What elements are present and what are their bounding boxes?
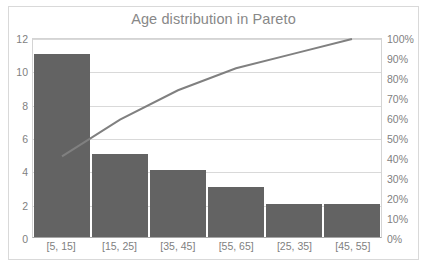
y-axis-right-tick-label: 60% xyxy=(387,113,408,125)
y-axis-right-tick-label: 10% xyxy=(387,213,408,225)
x-axis-tick-label: [15, 25] xyxy=(90,240,148,252)
y-axis-left-tick-label: 2 xyxy=(22,200,28,212)
y-axis-left-tick-label: 4 xyxy=(22,166,28,178)
y-axis-right-tick-label: 0% xyxy=(387,233,402,245)
bar xyxy=(92,154,148,237)
bar-cell xyxy=(323,39,381,237)
chart-title: Age distribution in Pareto xyxy=(9,11,418,27)
y-axis-right-tick-label: 90% xyxy=(387,53,408,65)
y-axis-left-tick-label: 0 xyxy=(22,233,28,245)
x-axis-tick-label: [35, 45] xyxy=(149,240,207,252)
y-axis-right-tick-label: 20% xyxy=(387,193,408,205)
x-axis-tick-label: [45, 55] xyxy=(324,240,382,252)
bar-cell xyxy=(207,39,265,237)
bar-series xyxy=(33,39,381,237)
bar xyxy=(266,204,322,237)
y-axis-left-tick-label: 10 xyxy=(16,66,28,78)
bar xyxy=(150,170,206,237)
x-axis-tick-label: [5, 15] xyxy=(32,240,90,252)
x-axis-tick-label: [25, 35] xyxy=(265,240,323,252)
y-axis-right-tick-label: 70% xyxy=(387,93,408,105)
bar xyxy=(208,187,264,237)
bar xyxy=(34,54,90,237)
bar-cell xyxy=(149,39,207,237)
x-axis-tick-label: [55, 65] xyxy=(207,240,265,252)
y-axis-left-tick-label: 8 xyxy=(22,100,28,112)
y-axis-right-tick-label: 100% xyxy=(387,33,414,45)
y-axis-left-tick-label: 6 xyxy=(22,133,28,145)
bar-cell xyxy=(33,39,91,237)
plot-area: 024681012 0%10%20%30%40%50%60%70%80%90%1… xyxy=(32,38,382,238)
y-axis-right-tick-label: 80% xyxy=(387,73,408,85)
bar-cell xyxy=(265,39,323,237)
y-axis-right-tick-label: 40% xyxy=(387,153,408,165)
y-axis-left-tick-label: 12 xyxy=(16,33,28,45)
y-axis-right-tick-label: 30% xyxy=(387,173,408,185)
x-axis-labels: [5, 15][15, 25][35, 45][55, 65][25, 35][… xyxy=(32,240,382,252)
bar-cell xyxy=(91,39,149,237)
y-axis-right-tick-label: 50% xyxy=(387,133,408,145)
bar xyxy=(324,204,380,237)
chart-frame: Age distribution in Pareto 024681012 0%1… xyxy=(8,6,419,260)
